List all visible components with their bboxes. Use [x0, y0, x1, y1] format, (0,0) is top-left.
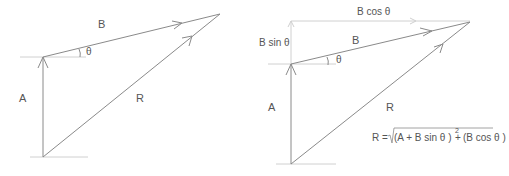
vector-addition-diagram: B θ A R B cos θ B sin θ B θ A R R =: [0, 0, 509, 176]
label-b-cos: B cos θ: [357, 6, 391, 17]
formula-plus: +: [455, 132, 461, 143]
formula-lhs: R =: [372, 132, 388, 143]
vector-r-arrowhead-icon: [434, 44, 443, 53]
right-diagram: B cos θ B sin θ B θ A R R = (A + B sin θ…: [259, 6, 506, 164]
label-theta: θ: [86, 46, 92, 57]
label-b: B: [352, 34, 359, 46]
theta-arc-icon: [79, 49, 80, 57]
formula-term1: (A + B sin θ ): [394, 132, 452, 143]
label-a: A: [19, 92, 27, 104]
resultant-formula: R = (A + B sin θ ) 2 + (B cos θ ): [372, 127, 506, 143]
label-b: B: [98, 18, 105, 30]
left-diagram: B θ A R: [19, 14, 220, 157]
label-b-sin: B sin θ: [259, 37, 290, 48]
label-r: R: [136, 92, 144, 104]
label-a: A: [268, 101, 276, 113]
formula-term2: (B cos θ ): [463, 132, 506, 143]
label-r: R: [386, 101, 394, 113]
label-theta: θ: [336, 54, 342, 65]
